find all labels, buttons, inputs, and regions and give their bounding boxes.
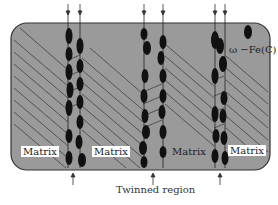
twinning-diagram bbox=[0, 0, 278, 205]
matrix-label-3: Matrix bbox=[170, 146, 208, 157]
legend-particle-icon bbox=[244, 25, 252, 39]
top-arrows bbox=[66, 4, 227, 15]
matrix-label-1: Matrix bbox=[21, 146, 59, 157]
legend-label: ω −Fe(C) bbox=[229, 44, 276, 55]
twinned-region-caption: Twinned region bbox=[116, 184, 195, 195]
matrix-label-4: Matrix bbox=[228, 145, 266, 156]
matrix-label-2: Matrix bbox=[92, 146, 130, 157]
